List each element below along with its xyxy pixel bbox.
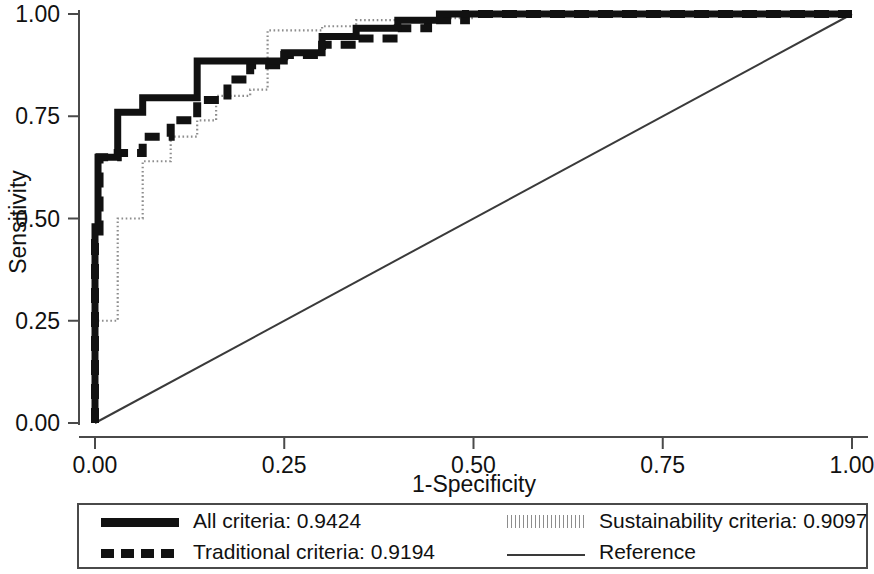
roc-curve-reference (95, 14, 852, 423)
legend-item-traditional-criteria: Traditional criteria: 0.9194 (79, 541, 477, 562)
y-tick-label: 1.00 (15, 1, 60, 27)
x-tick-label: 0.00 (73, 452, 118, 478)
y-axis-ticks (68, 14, 79, 423)
y-tick-label: 0.00 (15, 410, 60, 436)
legend-label-all-criteria: All criteria: 0.9424 (193, 510, 361, 531)
plot-area: 0.000.250.500.751.00 0.000.250.500.751.0… (0, 0, 874, 500)
legend-label-sustainability-criteria: Sustainability criteria: 0.9097 (599, 510, 867, 531)
legend-label-reference: Reference (599, 541, 696, 562)
roc-curves-group (95, 14, 852, 423)
roc-curve-figure: 0.000.250.500.751.00 0.000.250.500.751.0… (0, 0, 874, 574)
legend-label-traditional-criteria: Traditional criteria: 0.9194 (193, 541, 435, 562)
x-axis-ticks (95, 437, 852, 449)
legend-item-all-criteria: All criteria: 0.9424 (79, 510, 477, 531)
legend-swatch-dotted-line-icon (507, 515, 585, 528)
x-tick-label: 1.00 (830, 452, 874, 478)
legend-item-sustainability-criteria: Sustainability criteria: 0.9097 (477, 510, 870, 531)
x-axis-title: 1-Specificity (412, 471, 536, 497)
legend-item-reference: Reference (477, 541, 870, 562)
x-tick-label: 0.25 (262, 452, 307, 478)
y-tick-label: 0.25 (15, 308, 60, 334)
legend: All criteria: 0.9424 Sustainability crit… (77, 503, 868, 569)
y-tick-label: 0.75 (15, 103, 60, 129)
legend-swatch-thin-line-icon (507, 554, 585, 556)
roc-plot-svg: 0.000.250.500.751.00 0.000.250.500.751.0… (0, 0, 874, 500)
y-axis-title: Sensitivity (5, 170, 31, 274)
x-tick-label: 0.75 (640, 452, 685, 478)
legend-swatch-solid-line-icon (101, 518, 179, 527)
legend-swatch-dashed-line-icon (101, 549, 179, 558)
